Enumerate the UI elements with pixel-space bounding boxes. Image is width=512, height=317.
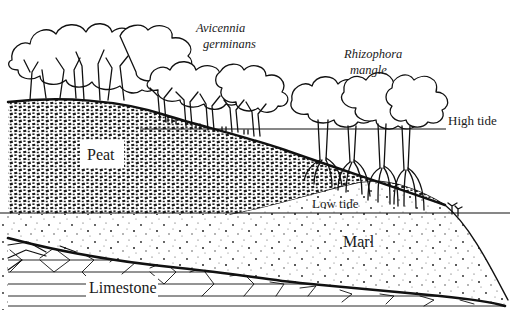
peat-label-text: Peat [87, 146, 115, 163]
limestone-label-text: Limestone [89, 279, 157, 296]
species-label-avicennia: Avicennia germinans [195, 21, 256, 51]
limestone-label: Limestone [86, 276, 158, 298]
species-label-rhizophora: Rhizophora mangle [343, 47, 402, 77]
rhizophora-species-label: mangle [350, 63, 387, 77]
rhizophora-genus-label: Rhizophora [343, 47, 402, 61]
marl-label: Marl [343, 233, 375, 250]
low-tide-label: Low tide [312, 196, 359, 211]
peat-label: Peat [80, 140, 124, 168]
high-tide-label: High tide [448, 113, 497, 128]
avicennia-species-label: germinans [203, 37, 256, 51]
mangrove-cross-section-diagram: Avicennia germinans Rhizophora mangle Hi… [0, 0, 512, 317]
avicennia-genus-label: Avicennia [195, 21, 245, 35]
